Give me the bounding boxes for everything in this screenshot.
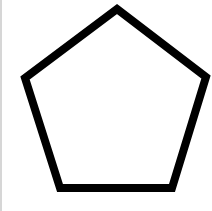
pentagon-diagram	[0, 0, 212, 211]
pentagon-shape	[25, 9, 206, 188]
